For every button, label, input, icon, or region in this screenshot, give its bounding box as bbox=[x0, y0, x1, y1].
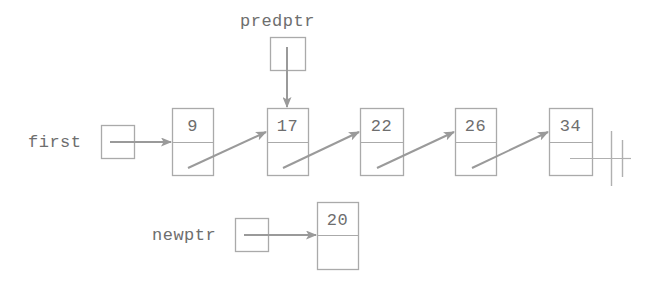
arrow-node-17-to-node-22 bbox=[283, 132, 359, 168]
arrow-node-9-to-node-17 bbox=[188, 132, 266, 168]
predptr-pointer-label: predptr bbox=[240, 13, 315, 30]
diagram-canvas bbox=[0, 0, 657, 287]
linked-list-diagram: first predptr newptr 9 17 22 26 34 20 bbox=[0, 0, 657, 287]
arrow-node-26-to-node-34 bbox=[472, 132, 548, 168]
node-9-value: 9 bbox=[172, 118, 213, 135]
newptr-pointer-label: newptr bbox=[152, 227, 216, 244]
node-17-value: 17 bbox=[267, 118, 308, 135]
null-terminator-icon bbox=[570, 131, 631, 186]
node-20-value: 20 bbox=[317, 212, 358, 229]
first-pointer-label: first bbox=[28, 134, 82, 151]
node-26-value: 26 bbox=[455, 118, 496, 135]
arrow-node-22-to-node-26 bbox=[377, 132, 454, 168]
node-34-value: 34 bbox=[549, 118, 592, 135]
node-22-value: 22 bbox=[360, 118, 403, 135]
